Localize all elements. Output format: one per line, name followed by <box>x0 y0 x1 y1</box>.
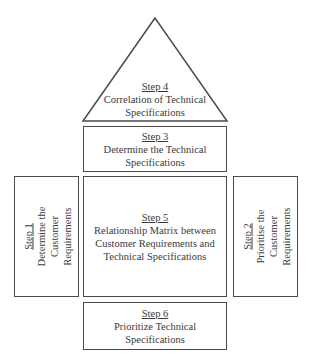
step6-description: Prioritize Technical Specifications <box>114 320 196 346</box>
step3-description: Determine the Technical Specifications <box>104 143 207 169</box>
step1-text: Step 1 Determine the Customer Requiremen… <box>19 177 74 297</box>
step2-text: Step 2 Prioritise the Customer Requireme… <box>238 177 293 297</box>
step2-label: Step 2 <box>240 223 253 250</box>
step1-description: Determine the Customer Requirements <box>34 207 73 267</box>
step6-label: Step 6 <box>142 307 169 320</box>
step3-label: Step 3 <box>142 130 169 143</box>
step4-label: Step 4 <box>83 80 227 93</box>
step2-description: Prioritise the Customer Requirements <box>253 207 292 265</box>
step5-box: Step 5 Relationship Matrix between Custo… <box>83 176 227 297</box>
step6-box: Step 6 Prioritize Technical Specificatio… <box>83 302 227 350</box>
step5-description: Relationship Matrix between Customer Req… <box>94 224 216 263</box>
step3-box: Step 3 Determine the Technical Specifica… <box>83 126 227 172</box>
step4-description: Correlation of Technical Specifications <box>83 93 227 119</box>
step1-label: Step 1 <box>21 223 34 250</box>
step5-label: Step 5 <box>142 211 169 224</box>
step4-text: Step 4 Correlation of Technical Specific… <box>83 80 227 119</box>
